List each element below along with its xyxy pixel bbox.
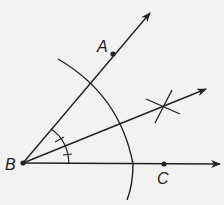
label-B: B [5, 156, 16, 173]
bisector-ray [23, 89, 206, 163]
ray-BC [23, 163, 220, 164]
ray-BA [23, 13, 150, 163]
point-A [110, 51, 115, 56]
label-C: C [157, 170, 169, 187]
tick-mark-lower [63, 154, 72, 155]
angle-arc-small [51, 129, 69, 164]
diagram-svg: A B C [0, 0, 224, 205]
label-A: A [96, 38, 108, 55]
point-C [161, 161, 166, 166]
angle-bisector-diagram: A B C [0, 0, 224, 205]
construction-arc-large [58, 59, 133, 200]
point-B [20, 160, 25, 165]
